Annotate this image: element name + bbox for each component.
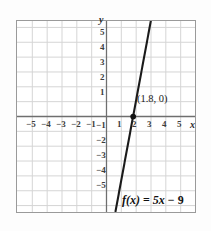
plot-area — [16, 20, 196, 213]
equation-slope-term: 5x — [153, 193, 165, 207]
y-tick-minus-1: −1 — [96, 121, 106, 130]
y-tick-4: 4 — [100, 43, 105, 52]
x-intercept-label: (1.8, 0) — [137, 94, 168, 105]
graph-figure: 5 4 3 2 1 −1 −2 −3 −4 −5 −5 −4 −3 −2 −1 … — [0, 0, 211, 231]
y-tick-minus-3: −3 — [96, 151, 106, 160]
x-tick-2: 2 — [132, 120, 137, 129]
equation-function-part: f(x) — [122, 193, 140, 207]
x-tick-1: 1 — [117, 120, 122, 129]
equation-label: f(x) = 5x − 9 — [122, 194, 184, 206]
y-axis-label: y — [99, 15, 103, 25]
equation-intercept: 9 — [178, 193, 184, 207]
y-tick-3: 3 — [100, 58, 105, 67]
x-tick-5: 5 — [177, 120, 182, 129]
x-tick-minus-3: −3 — [56, 120, 66, 129]
x-tick-minus-5: −5 — [26, 120, 36, 129]
x-tick-4: 4 — [162, 120, 167, 129]
y-tick-5: 5 — [100, 28, 105, 37]
function-line — [17, 21, 195, 212]
x-tick-3: 3 — [147, 120, 152, 129]
x-tick-minus-1: −1 — [86, 120, 96, 129]
x-axis-label: x — [190, 120, 195, 130]
equation-minus: − — [168, 193, 175, 207]
y-tick-minus-2: −2 — [96, 136, 106, 145]
x-tick-minus-2: −2 — [71, 120, 81, 129]
equation-equals: = — [143, 193, 150, 207]
x-tick-minus-4: −4 — [41, 120, 51, 129]
y-tick-1: 1 — [100, 88, 105, 97]
y-tick-minus-5: −5 — [96, 181, 106, 190]
y-tick-minus-4: −4 — [96, 166, 106, 175]
y-tick-2: 2 — [100, 73, 105, 82]
